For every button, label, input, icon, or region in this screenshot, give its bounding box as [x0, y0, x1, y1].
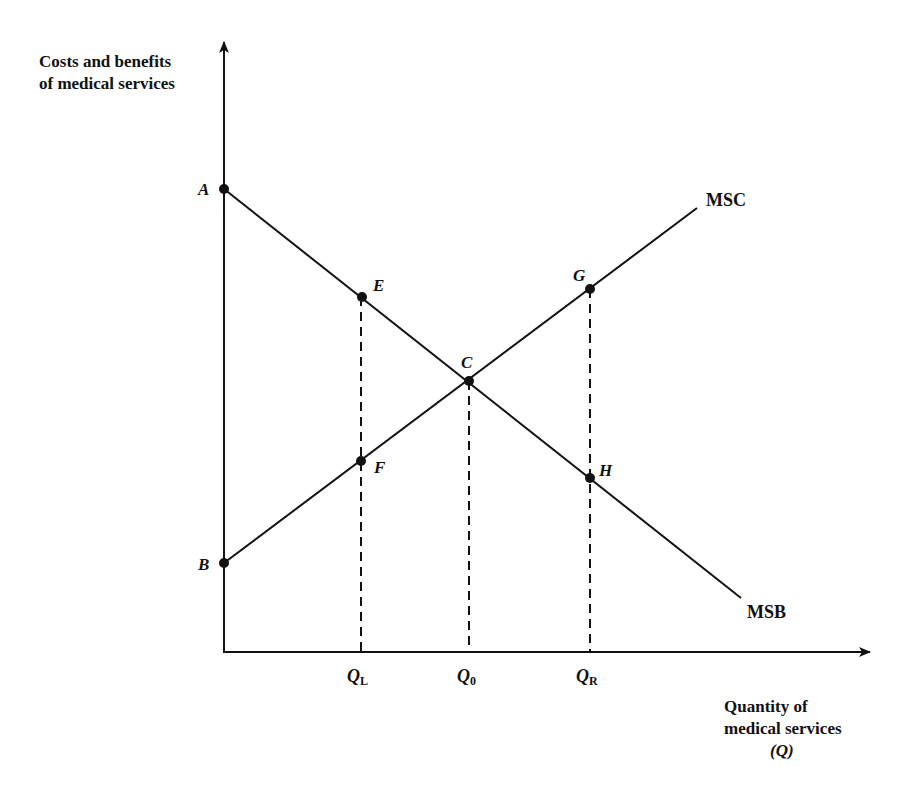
point-a — [219, 184, 229, 194]
msb-label: MSB — [747, 602, 786, 623]
point-e-label: E — [373, 276, 384, 296]
point-b — [219, 558, 229, 568]
msc-curve — [224, 208, 697, 563]
x-axis-label-line2: medical services — [724, 718, 842, 739]
tick-q0-sub: 0 — [470, 674, 476, 688]
tick-q0-main: Q — [457, 666, 470, 686]
x-axis-label-line3: (Q) — [770, 740, 794, 761]
y-axis-label-line1: Costs and benefits — [39, 51, 171, 72]
point-f — [356, 456, 366, 466]
point-g-label: G — [573, 266, 585, 286]
diagram-canvas — [0, 0, 912, 812]
tick-ql-main: Q — [347, 666, 360, 686]
point-h — [585, 473, 595, 483]
tick-qr: QR — [576, 666, 598, 691]
point-h-label: H — [599, 461, 612, 481]
tick-ql: QL — [347, 666, 368, 691]
tick-qr-sub: R — [589, 674, 598, 688]
point-c-label: C — [461, 353, 472, 373]
y-axis-label-line2: of medical services — [39, 73, 175, 94]
msb-curve — [224, 189, 741, 598]
tick-q0: Q0 — [457, 666, 476, 691]
point-e — [357, 292, 367, 302]
tick-qr-main: Q — [576, 666, 589, 686]
msc-label: MSC — [706, 190, 746, 211]
tick-ql-sub: L — [360, 674, 368, 688]
point-f-label: F — [374, 458, 385, 478]
point-b-label: B — [198, 555, 209, 575]
x-axis-label-line1: Quantity of — [724, 696, 808, 717]
point-g — [585, 284, 595, 294]
point-c — [464, 376, 474, 386]
point-a-label: A — [198, 180, 209, 200]
